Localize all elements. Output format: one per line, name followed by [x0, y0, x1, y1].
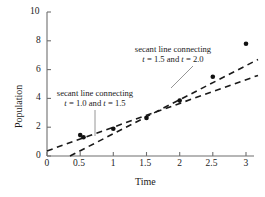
x-axis-ticks — [47, 152, 246, 156]
y-tick-label-2: 2 — [36, 122, 41, 132]
x-tick-label-1p5: 1.5 — [139, 159, 151, 169]
y-axis-ticks — [47, 12, 51, 156]
right-annotation-line1: secant line connecting — [114, 44, 232, 54]
data-point — [111, 126, 116, 131]
right-annotation-leader-line — [171, 66, 193, 88]
left-annotation-line1: secant line connecting — [36, 88, 154, 98]
right-secant-annotation: secant line connecting t = 1.5 and t = 2… — [114, 44, 232, 65]
right-annotation-text-1: = 1.5 and — [145, 54, 182, 64]
data-point — [144, 116, 149, 121]
data-point — [81, 135, 86, 140]
y-tick-label-8: 8 — [36, 36, 41, 46]
secant-line-1p0-1p5 — [47, 75, 258, 150]
left-secant-annotation: secant line connecting t = 1.0 and t = 1… — [36, 88, 154, 109]
x-tick-label-3: 3 — [244, 159, 249, 169]
x-axis-label: Time — [135, 177, 156, 187]
data-point — [177, 98, 182, 103]
right-annotation-text-2: = 2.0 — [184, 54, 204, 64]
data-point — [211, 75, 216, 80]
x-tick-label-0p5: 0.5 — [73, 159, 85, 169]
left-annotation-text-1: = 1.0 and — [67, 98, 104, 108]
left-annotation-line2: t = 1.0 and t = 1.5 — [36, 98, 154, 108]
left-annotation-text-2: = 1.5 — [106, 98, 126, 108]
y-tick-label-0: 0 — [36, 151, 41, 161]
x-tick-label-2p5: 2.5 — [206, 159, 218, 169]
y-axis-label: Population — [14, 85, 24, 128]
x-tick-label-2: 2 — [177, 159, 182, 169]
data-point — [244, 41, 249, 46]
y-tick-label-6: 6 — [36, 65, 41, 75]
x-tick-label-1: 1 — [111, 159, 116, 169]
y-tick-label-10: 10 — [30, 7, 40, 17]
x-tick-label-0: 0 — [45, 159, 50, 169]
right-annotation-line2: t = 1.5 and t = 2.0 — [114, 54, 232, 64]
population-secant-line-chart: 10 8 6 4 2 0 0 0.5 1 1.5 2 2.5 3 Time Po… — [0, 0, 265, 197]
